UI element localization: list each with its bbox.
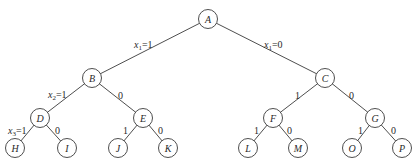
node-label: O [348,143,355,154]
tree-node-O: O [343,139,362,158]
tree-node-J: J [109,139,128,158]
tree-node-D: D [31,109,50,128]
edge-label-A-C: x1=0 [263,39,283,52]
node-label: H [10,143,19,154]
edge-label-C-G: 0 [349,90,354,101]
tree-node-G: G [366,109,385,128]
node-label: G [371,113,378,124]
node-label: M [293,143,303,154]
edge-label-F-M: 0 [287,125,292,136]
tree-node-C: C [316,69,335,88]
node-label: C [322,73,329,84]
node-label: K [164,143,173,154]
tree-node-A: A [199,10,218,29]
edge-label-E-K: 0 [158,125,163,136]
edge-label-F-L: 1 [254,125,259,136]
decision-tree-diagram: x1=1x1=0x2=1010x3=10101010 ABCDEFGHIJKLM… [0,0,413,167]
tree-node-E: E [134,109,153,128]
tree-node-F: F [264,109,283,128]
nodes-layer: ABCDEFGHIJKLMOP [6,10,412,158]
node-label: I [64,143,69,154]
node-label: E [139,113,146,124]
node-label: B [89,73,95,84]
node-label: F [269,113,277,124]
edge-label-D-H: x3=1 [7,125,27,138]
edge-label-G-O: 1 [358,125,363,136]
node-label: J [116,143,121,154]
edge-label-E-J: 1 [123,125,128,136]
tree-node-I: I [58,139,77,158]
node-label: D [35,113,44,124]
edge-label-A-B: x1=1 [133,39,153,52]
edge-label-B-E: 0 [118,90,123,101]
tree-node-H: H [6,139,25,158]
tree-node-K: K [159,139,178,158]
tree-node-B: B [83,69,102,88]
edge-label-G-P: 0 [391,125,396,136]
tree-node-L: L [239,139,258,158]
edges-layer [15,19,402,148]
tree-node-M: M [289,139,308,158]
edge-label-C-F: 1 [295,90,300,101]
edge-label-D-I: 0 [55,125,60,136]
tree-node-P: P [393,139,412,158]
node-label: P [398,143,405,154]
node-label: A [204,14,212,25]
node-label: L [244,143,251,154]
